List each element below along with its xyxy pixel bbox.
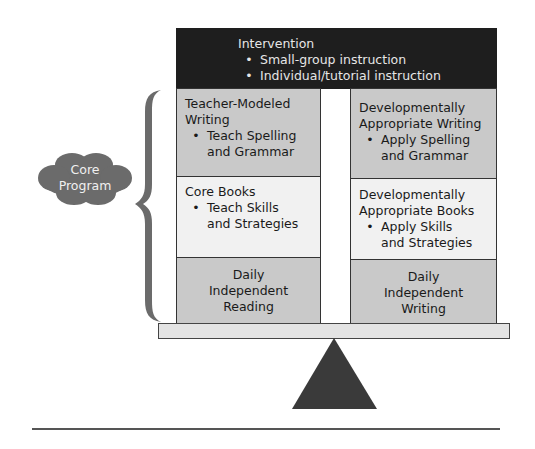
bullet-spacer bbox=[359, 148, 381, 164]
cell-item-text: Apply Skills bbox=[381, 219, 452, 235]
cell-item: and Grammar bbox=[359, 148, 496, 164]
teacher-modeled-writing-cell: Teacher-Modeled Writing •Teach Spelling … bbox=[176, 88, 321, 177]
intervention-item: • Individual/tutorial instruction bbox=[238, 68, 497, 84]
cell-item-text: and Grammar bbox=[381, 148, 468, 164]
intervention-item-text: Small-group instruction bbox=[260, 52, 406, 68]
bullet: • bbox=[359, 219, 381, 235]
cell-title: Teacher-Modeled bbox=[185, 96, 320, 112]
cell-line: Reading bbox=[177, 299, 320, 315]
core-program-label: Core Program bbox=[34, 162, 136, 194]
bullet: • bbox=[238, 52, 260, 68]
core-program-line: Core bbox=[34, 162, 136, 178]
core-program-line: Program bbox=[34, 178, 136, 194]
cell-title: Appropriate Books bbox=[359, 203, 496, 219]
cell-item: •Apply Skills bbox=[359, 219, 496, 235]
cell-item: and Grammar bbox=[185, 144, 320, 160]
bullet-spacer bbox=[359, 235, 381, 251]
cell-title: Developmentally bbox=[359, 100, 496, 116]
intervention-box: Intervention • Small-group instruction •… bbox=[176, 28, 497, 89]
cell-title: Writing bbox=[185, 112, 320, 128]
cell-title: Core Books bbox=[185, 184, 320, 200]
cell-item-text: Apply Spelling bbox=[381, 132, 470, 148]
horizontal-rule bbox=[32, 428, 500, 430]
cell-line: Independent bbox=[177, 283, 320, 299]
cell-item-text: Teach Spelling bbox=[207, 128, 296, 144]
intervention-title: Intervention bbox=[238, 36, 497, 52]
bullet: • bbox=[185, 128, 207, 144]
core-books-cell: Core Books •Teach Skills and Strategies bbox=[176, 176, 321, 258]
developmentally-appropriate-books-cell: Developmentally Appropriate Books •Apply… bbox=[350, 178, 497, 260]
cell-item: •Teach Skills bbox=[185, 200, 320, 216]
cell-item-text: and Strategies bbox=[207, 216, 298, 232]
intervention-item-text: Individual/tutorial instruction bbox=[260, 68, 441, 84]
bullet: • bbox=[359, 132, 381, 148]
cell-title: Developmentally bbox=[359, 187, 496, 203]
curly-brace-icon bbox=[135, 88, 165, 324]
cell-line: Daily bbox=[177, 267, 320, 283]
cell-item: •Teach Spelling bbox=[185, 128, 320, 144]
fulcrum-triangle-icon bbox=[290, 336, 380, 410]
daily-independent-reading-cell: Daily Independent Reading bbox=[176, 257, 321, 324]
cell-item: •Apply Spelling bbox=[359, 132, 496, 148]
cell-title: Appropriate Writing bbox=[359, 116, 496, 132]
cell-item-text: Teach Skills bbox=[207, 200, 279, 216]
cell-line: Writing bbox=[351, 301, 496, 317]
cell-item-text: and Strategies bbox=[381, 235, 472, 251]
bullet-spacer bbox=[185, 216, 207, 232]
bullet: • bbox=[238, 68, 260, 84]
bullet: • bbox=[185, 200, 207, 216]
cell-item: and Strategies bbox=[185, 216, 320, 232]
cell-item: and Strategies bbox=[359, 235, 496, 251]
cell-item-text: and Grammar bbox=[207, 144, 294, 160]
intervention-item: • Small-group instruction bbox=[238, 52, 497, 68]
cell-line: Independent bbox=[351, 285, 496, 301]
developmentally-appropriate-writing-cell: Developmentally Appropriate Writing •App… bbox=[350, 88, 497, 179]
daily-independent-writing-cell: Daily Independent Writing bbox=[350, 259, 497, 324]
bullet-spacer bbox=[185, 144, 207, 160]
cell-line: Daily bbox=[351, 269, 496, 285]
